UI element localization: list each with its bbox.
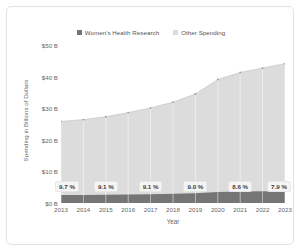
x-axis-title: Year: [61, 218, 285, 225]
x-axis-tick-labels: 2013201420152016201720182019202020212022…: [61, 206, 285, 218]
legend-item-womens-health-research[interactable]: Women's Health Research: [77, 29, 159, 36]
data-point-marker[interactable]: [83, 119, 85, 121]
y-axis-tick-label: $30 B: [42, 105, 58, 112]
x-axis-tick-label: 2016: [121, 206, 135, 213]
y-axis-tick-label: $10 B: [42, 168, 58, 175]
x-axis-tick-label: 2021: [233, 206, 247, 213]
legend-swatch-womens-health-research: [77, 30, 82, 35]
x-axis-tick-label: 2022: [256, 206, 270, 213]
y-axis-tick-label: $20 B: [42, 136, 58, 143]
x-axis-tick-label: 2017: [144, 206, 158, 213]
data-point-marker[interactable]: [239, 72, 241, 74]
y-axis-tick-labels: $0 B$10 B$20 B$30 B$40 B$50 B: [29, 45, 58, 203]
x-axis-tick-label: 2023: [278, 206, 292, 213]
y-axis-tick-label: $50 B: [42, 42, 58, 49]
x-axis-tick-label: 2015: [99, 206, 113, 213]
data-point-marker[interactable]: [217, 79, 219, 81]
legend-label-womens-health-research: Women's Health Research: [85, 29, 159, 36]
legend-item-other-spending[interactable]: Other Spending: [173, 29, 225, 36]
plot-area: [61, 45, 285, 203]
x-axis-tick-label: 2018: [166, 206, 180, 213]
x-axis-tick-label: 2019: [189, 206, 203, 213]
chart-card: Women's Health Research Other Spending $…: [6, 6, 294, 245]
data-point-marker[interactable]: [172, 101, 174, 103]
area-chart-svg: [61, 45, 285, 203]
data-point-marker[interactable]: [150, 107, 152, 109]
data-point-marker[interactable]: [195, 93, 197, 95]
data-point-marker[interactable]: [262, 67, 264, 69]
y-axis-title: Spending in Billions of Dollars: [22, 61, 29, 181]
x-axis-tick-label: 2013: [54, 206, 68, 213]
chart-legend: Women's Health Research Other Spending: [7, 29, 295, 36]
x-axis-tick-label: 2020: [211, 206, 225, 213]
data-point-marker[interactable]: [127, 112, 129, 114]
x-axis-tick-label: 2014: [77, 206, 91, 213]
legend-label-other-spending: Other Spending: [181, 29, 225, 36]
data-point-marker[interactable]: [105, 116, 107, 118]
y-axis-tick-label: $40 B: [42, 73, 58, 80]
legend-swatch-other-spending: [173, 30, 178, 35]
